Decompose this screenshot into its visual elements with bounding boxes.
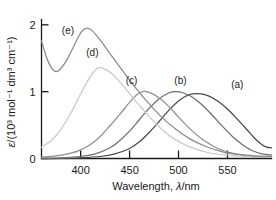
svg-text:ε/(10³ mol⁻¹ dm³ cm⁻¹): ε/(10³ mol⁻¹ dm³ cm⁻¹) (5, 37, 17, 148)
chart-curve-label-e: (e) (62, 25, 74, 36)
chart-canvas: 012 400450500550 (a)(b)(c)(d)(e) ε/(10³ … (0, 0, 276, 200)
chart-series-group (42, 28, 272, 158)
chart-curve-label-d: (d) (86, 47, 98, 58)
chart-curve-e (42, 28, 272, 156)
chart-series-labels: (a)(b)(c)(d)(e) (62, 25, 244, 89)
svg-text:Wavelength, λ/nm: Wavelength, λ/nm (112, 180, 200, 192)
y-axis-ticks: 012 (29, 19, 48, 165)
y-tick-label: 0 (29, 153, 35, 165)
x-axis-title-word: Wavelength, (112, 180, 173, 192)
x-axis-ticks: 400450500550 (71, 151, 236, 176)
x-tick-label: 400 (71, 164, 89, 176)
y-axis-title: ε/(10³ mol⁻¹ dm³ cm⁻¹) (5, 37, 17, 148)
x-axis-title: Wavelength, λ/nm (112, 180, 200, 192)
x-tick-label: 450 (120, 164, 138, 176)
chart-curve-label-c: (c) (126, 75, 138, 86)
y-tick-label: 2 (29, 19, 35, 31)
chart-curve-label-b: (b) (174, 75, 186, 86)
x-tick-label: 500 (169, 164, 187, 176)
chart-curve-label-a: (a) (231, 79, 243, 90)
y-tick-label: 1 (29, 86, 35, 98)
y-axis-title-units: /(10³ mol⁻¹ dm³ cm⁻¹) (5, 37, 17, 143)
x-axis-title-unit: /nm (181, 180, 199, 192)
x-tick-label: 550 (218, 164, 236, 176)
absorption-spectra-chart: 012 400450500550 (a)(b)(c)(d)(e) ε/(10³ … (0, 0, 276, 200)
